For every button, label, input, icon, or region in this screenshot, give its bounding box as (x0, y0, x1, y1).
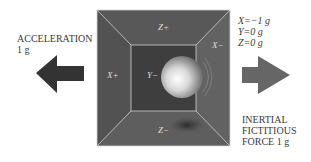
face-label-bottom: Z− (158, 125, 169, 135)
inertial-caption: INERTIAL FICTITIOUS FORCE 1 g (242, 114, 296, 147)
face-label-top: Z+ (158, 22, 169, 32)
readout-x: X=−1 g (238, 15, 270, 26)
ball (161, 56, 203, 98)
readout-y: Y=0 g (238, 26, 270, 37)
acceleration-caption: ACCELERATION 1 g (17, 33, 93, 55)
readout-z: Z=0 g (238, 37, 270, 48)
face-label-right: X− (212, 40, 224, 50)
face-label-left: X+ (107, 70, 119, 80)
ball-shadow (169, 117, 205, 133)
inertial-force-arrow (242, 56, 290, 94)
acceleration-arrow (36, 55, 84, 93)
axis-readout: X=−1 g Y=0 g Z=0 g (238, 15, 270, 48)
face-label-back: Y− (147, 70, 158, 80)
